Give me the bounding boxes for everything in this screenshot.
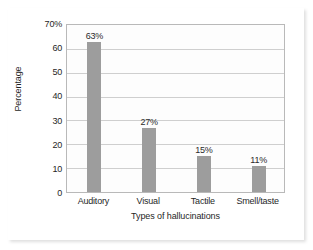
bar-auditory[interactable]: [87, 42, 101, 192]
y-tick-label: 20: [0, 140, 62, 150]
bar-value-visual: 27%: [140, 117, 157, 127]
plot-area: 63% 27% 15% 11%: [66, 24, 285, 193]
y-tick-label: 40: [0, 91, 62, 101]
y-axis-tick-labels: 0 10 20 30 40 50 60 70%: [0, 24, 62, 193]
bar-visual[interactable]: [142, 128, 156, 192]
x-tick-label-smell-taste: Smell/taste: [230, 196, 285, 206]
x-tick-label-auditory: Auditory: [66, 196, 121, 206]
y-tick-label: 50: [0, 67, 62, 77]
y-tick-label: 30: [0, 116, 62, 126]
bar-smell-taste[interactable]: [252, 166, 266, 192]
bar-group-visual: 27%: [122, 25, 177, 192]
bar-group-tactile: 15%: [177, 25, 232, 192]
bars-layer: 63% 27% 15% 11%: [67, 25, 284, 192]
figure-card: Percentage 0 10 20 30 40 50 60 70% 63%: [0, 0, 313, 250]
bar-tactile[interactable]: [197, 156, 211, 192]
bar-value-smell-taste: 11%: [250, 155, 267, 165]
bar-chart: Percentage 0 10 20 30 40 50 60 70% 63%: [0, 0, 313, 250]
y-tick-label: 60: [0, 43, 62, 53]
bar-group-smell-taste: 11%: [231, 25, 286, 192]
y-tick-label: 0: [0, 188, 62, 198]
x-tick-label-tactile: Tactile: [176, 196, 231, 206]
y-tick-label: 10: [0, 164, 62, 174]
x-axis-tick-labels: Auditory Visual Tactile Smell/taste: [66, 196, 285, 210]
bar-group-auditory: 63%: [67, 25, 122, 192]
y-tick-label: 70%: [0, 19, 62, 29]
x-axis-title: Types of hallucinations: [66, 211, 285, 221]
bar-value-auditory: 63%: [86, 31, 103, 41]
bar-value-tactile: 15%: [195, 145, 212, 155]
x-tick-label-visual: Visual: [121, 196, 176, 206]
